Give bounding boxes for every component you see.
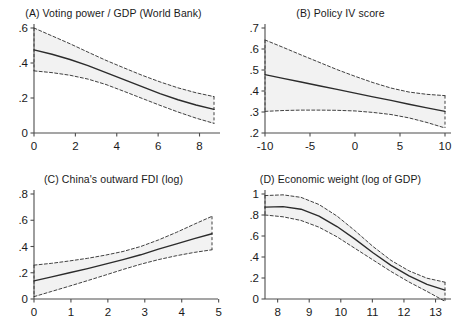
chart-panel-b: (B) Policy IV score .2.3.4.5.6.7-10-5051… [227,0,454,166]
svg-text:.6: .6 [18,22,28,34]
svg-text:.4: .4 [249,85,259,97]
svg-text:.2: .2 [18,92,28,104]
svg-text:.6: .6 [18,214,28,226]
svg-text:.5: .5 [249,64,259,76]
svg-text:.3: .3 [249,106,259,118]
svg-text:.7: .7 [249,22,259,34]
svg-text:5: 5 [215,306,221,318]
svg-text:8: 8 [196,140,202,152]
svg-text:4: 4 [114,140,121,152]
svg-text:10: 10 [439,140,452,152]
svg-text:0: 0 [31,306,37,318]
panel-d-plot: 0.2.4.6.818910111213 [227,166,454,332]
panel-c-plot: 0.2.4.6.8012345 [0,166,227,332]
svg-text:.4: .4 [249,251,259,263]
svg-text:0: 0 [253,293,259,305]
chart-panel-d: (D) Economic weight (log of GDP) 0.2.4.6… [227,166,454,332]
svg-text:1: 1 [68,306,74,318]
svg-text:4: 4 [179,306,186,318]
svg-text:9: 9 [306,306,312,318]
chart-panel-a: (A) Voting power / GDP (World Bank) 0.2.… [0,0,227,166]
svg-text:.8: .8 [18,188,28,200]
svg-text:.6: .6 [249,43,259,55]
panel-b-plot: .2.3.4.5.6.7-10-50510 [227,0,454,166]
svg-text:3: 3 [142,306,148,318]
svg-text:13: 13 [429,306,442,318]
svg-text:.2: .2 [249,272,259,284]
svg-text:0: 0 [31,140,37,152]
svg-text:.8: .8 [249,209,259,221]
svg-text:.2: .2 [249,127,259,139]
svg-text:0: 0 [352,140,358,152]
svg-text:8: 8 [274,306,280,318]
svg-text:6: 6 [155,140,161,152]
chart-panel-c: (C) China's outward FDI (log) 0.2.4.6.80… [0,166,227,332]
svg-text:-5: -5 [305,140,315,152]
panel-a-plot: 0.2.4.602468 [0,0,227,166]
svg-text:5: 5 [397,140,403,152]
svg-text:1: 1 [253,188,259,200]
svg-text:0: 0 [22,127,28,139]
svg-text:-10: -10 [257,140,274,152]
svg-text:11: 11 [366,306,378,318]
svg-text:0: 0 [22,293,28,305]
figure-panel-grid: (A) Voting power / GDP (World Bank) 0.2.… [0,0,454,332]
svg-text:.4: .4 [18,57,28,69]
svg-text:2: 2 [72,140,78,152]
svg-text:10: 10 [334,306,347,318]
svg-text:.2: .2 [18,267,28,279]
svg-text:12: 12 [398,306,411,318]
svg-text:.4: .4 [18,241,28,253]
svg-text:.6: .6 [249,230,259,242]
svg-text:2: 2 [105,306,111,318]
